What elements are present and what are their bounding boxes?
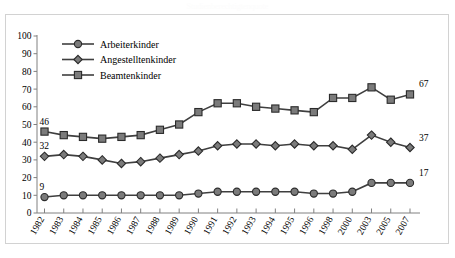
x-tick-label: 2007: [394, 215, 412, 237]
x-tick-label: 2005: [374, 215, 392, 237]
data-point: [329, 142, 337, 150]
data-point: [387, 96, 394, 103]
data-point: [195, 190, 202, 197]
end-value-label: 67: [419, 79, 429, 89]
data-point: [40, 152, 48, 160]
data-point: [79, 152, 87, 160]
x-tick-label: 1983: [47, 215, 65, 237]
data-point: [387, 138, 395, 146]
x-tick-label: 1985: [86, 215, 104, 237]
y-tick-label: 30: [22, 155, 32, 165]
legend-label: Angestelltenkinder: [100, 54, 177, 65]
y-tick-label: 10: [22, 191, 32, 201]
data-point: [387, 179, 394, 186]
data-point: [329, 94, 336, 101]
data-point: [271, 142, 279, 150]
data-point: [99, 135, 106, 142]
data-point: [253, 188, 260, 195]
x-tick-label: 1993: [240, 215, 258, 237]
data-point: [329, 190, 336, 197]
legend-marker-square: [74, 71, 81, 78]
y-tick-label: 0: [27, 208, 32, 218]
x-tick-label: 2003: [355, 215, 373, 237]
chart-root: Studienberechtigtenquote 010203040506070…: [0, 0, 455, 258]
x-tick-label: 1988: [143, 215, 161, 237]
x-axis: 1982198319841985198619871988198919901991…: [28, 209, 420, 237]
data-point: [252, 140, 260, 148]
legend-label: Arbeiterkinder: [100, 39, 160, 50]
data-point: [118, 133, 125, 140]
data-point: [117, 159, 125, 167]
data-point: [41, 193, 48, 200]
data-point: [137, 132, 144, 139]
data-point: [214, 100, 221, 107]
data-point: [41, 128, 48, 135]
x-tick-label: 1996: [297, 215, 315, 237]
end-value-label: 37: [419, 133, 429, 143]
data-point: [272, 105, 279, 112]
x-tick-label: 1992: [220, 215, 238, 237]
series-arbeiterkinder: [41, 179, 414, 200]
y-tick-label: 60: [22, 102, 32, 112]
data-point: [233, 188, 240, 195]
data-point: [310, 109, 317, 116]
data-point: [79, 133, 86, 140]
data-point: [349, 188, 356, 195]
data-point: [214, 188, 221, 195]
data-point: [233, 140, 241, 148]
data-point: [60, 132, 67, 139]
data-point: [79, 192, 86, 199]
legend-marker-circle: [74, 40, 81, 47]
data-point: [349, 94, 356, 101]
data-point: [156, 154, 164, 162]
data-point: [406, 143, 414, 151]
x-tick-label: 1989: [163, 215, 181, 237]
x-tick-label: 1995: [278, 215, 296, 237]
data-point: [368, 179, 375, 186]
line-chart-svg: 0102030405060708090100 19821983198419851…: [0, 0, 455, 258]
x-tick-label: 1990: [182, 215, 200, 237]
series-angestelltenkinder: [40, 131, 414, 168]
data-point: [156, 192, 163, 199]
y-axis: 0102030405060708090100: [17, 31, 37, 218]
y-tick-label: 70: [22, 85, 32, 95]
data-point: [213, 142, 221, 150]
data-point: [291, 188, 298, 195]
y-tick-label: 20: [22, 173, 32, 183]
x-tick-label: 1998: [317, 215, 335, 237]
data-point: [136, 157, 144, 165]
data-point: [98, 156, 106, 164]
data-point: [406, 179, 413, 186]
data-point: [176, 121, 183, 128]
series-layer: [40, 84, 414, 201]
chart-canvas: 0102030405060708090100 19821983198419851…: [0, 0, 455, 258]
start-value-label: 46: [40, 117, 50, 127]
start-value-label: 32: [40, 141, 50, 151]
data-point: [233, 100, 240, 107]
x-tick-label: 2000: [336, 215, 354, 237]
end-value-label: 17: [419, 168, 429, 178]
data-point: [310, 142, 318, 150]
data-point: [290, 140, 298, 148]
data-point: [310, 190, 317, 197]
series-beamtenkinder: [41, 84, 414, 143]
data-point: [253, 103, 260, 110]
legend-label: Beamtenkinder: [100, 70, 162, 81]
y-tick-label: 50: [22, 120, 32, 130]
x-tick-label: 1984: [67, 215, 85, 237]
data-point: [175, 150, 183, 158]
legend-marker-diamond: [74, 55, 82, 63]
x-tick-label: 1991: [201, 215, 219, 237]
y-tick-label: 100: [17, 31, 32, 41]
data-point: [406, 91, 413, 98]
x-tick-label: 1986: [105, 215, 123, 237]
data-point: [291, 107, 298, 114]
data-point: [99, 192, 106, 199]
data-point: [176, 192, 183, 199]
data-point: [60, 192, 67, 199]
y-tick-label: 80: [22, 67, 32, 77]
x-tick-label: 1994: [259, 215, 277, 237]
data-point: [194, 147, 202, 155]
chart-legend: ArbeiterkinderAngestelltenkinderBeamtenk…: [62, 39, 177, 81]
data-point: [137, 192, 144, 199]
